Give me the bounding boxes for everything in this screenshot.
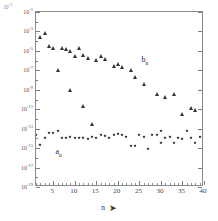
data-point-b_n bbox=[142, 82, 146, 86]
x-axis-minor-tick bbox=[152, 183, 153, 185]
data-point-a_n bbox=[78, 137, 81, 140]
data-point-a_n bbox=[90, 135, 93, 138]
data-point-b_n bbox=[68, 49, 72, 53]
x-axis-minor-tick bbox=[58, 183, 59, 185]
y-axis-tick-label: 10-15 bbox=[21, 144, 33, 151]
data-point-b_n bbox=[172, 92, 176, 96]
data-point-a_n bbox=[151, 133, 154, 136]
x-axis-minor-tick bbox=[109, 183, 110, 185]
x-axis-minor-tick bbox=[200, 183, 201, 185]
y-tick-exponent: -3 bbox=[29, 26, 33, 31]
x-axis-minor-tick bbox=[36, 183, 37, 185]
y-axis-tick bbox=[36, 90, 40, 91]
data-point-b_n bbox=[77, 46, 81, 50]
x-axis-minor-tick bbox=[101, 183, 102, 185]
data-point-b_n bbox=[133, 75, 137, 79]
x-axis-tick bbox=[161, 181, 162, 185]
series-label-subscript: n bbox=[146, 60, 149, 66]
y-axis-tick-right bbox=[198, 129, 202, 130]
y-tick-exponent: -19 bbox=[27, 182, 33, 187]
x-axis-tick bbox=[118, 181, 119, 185]
x-axis-minor-tick bbox=[122, 183, 123, 185]
x-axis-minor-tick bbox=[88, 183, 89, 185]
x-axis-minor-tick bbox=[114, 183, 115, 185]
data-point-a_n bbox=[43, 137, 46, 140]
data-point-a_n bbox=[36, 134, 38, 137]
y-axis-tick bbox=[36, 148, 40, 149]
x-axis-tick-label: 30 bbox=[156, 188, 163, 195]
x-axis-minor-tick bbox=[174, 183, 175, 185]
data-point-a_n bbox=[159, 142, 162, 145]
y-tick-exponent: -7 bbox=[29, 65, 33, 70]
data-point-a_n bbox=[56, 129, 59, 132]
series-label-subscript: n bbox=[59, 152, 62, 158]
data-point-a_n bbox=[181, 138, 184, 141]
data-point-a_n bbox=[82, 136, 85, 139]
data-point-a_n bbox=[103, 134, 106, 137]
data-point-a_n bbox=[190, 136, 193, 139]
x-axis-minor-tick bbox=[83, 183, 84, 185]
x-axis-minor-tick bbox=[49, 183, 50, 185]
x-axis-tick-label: 10 bbox=[70, 188, 77, 195]
y-axis-tick-label: 10-9 bbox=[23, 85, 33, 92]
y-axis-tick-right bbox=[198, 12, 202, 13]
x-axis-minor-tick bbox=[131, 183, 132, 185]
data-point-a_n bbox=[185, 129, 188, 132]
data-point-a_n bbox=[65, 137, 68, 140]
x-axis-title: n➤ bbox=[0, 203, 218, 212]
x-axis-tick bbox=[96, 181, 97, 185]
data-point-a_n bbox=[194, 142, 197, 145]
data-point-a_n bbox=[164, 136, 167, 139]
y-axis-tick-label: 10-13 bbox=[21, 124, 33, 131]
y-axis-tick-right bbox=[198, 51, 202, 52]
data-point-a_n bbox=[86, 138, 89, 141]
x-axis-minor-tick bbox=[170, 183, 171, 185]
data-point-a_n bbox=[134, 144, 137, 147]
x-axis-minor-tick bbox=[165, 183, 166, 185]
x-axis-minor-tick bbox=[62, 183, 63, 185]
right-arrow-icon: ➤ bbox=[109, 204, 117, 213]
y-axis-tick bbox=[36, 70, 40, 71]
figure: 10-3 10-110-310-510-710-910-1110-1310-15… bbox=[0, 0, 218, 221]
data-point-b_n bbox=[56, 68, 60, 72]
data-point-a_n bbox=[69, 135, 72, 138]
x-axis-minor-tick bbox=[144, 183, 145, 185]
x-axis-tick-label: 35 bbox=[178, 188, 185, 195]
x-axis-minor-tick bbox=[148, 183, 149, 185]
x-axis-tick bbox=[139, 181, 140, 185]
data-point-a_n bbox=[155, 134, 158, 137]
data-point-a_n bbox=[168, 135, 171, 138]
x-axis-tick-label: 20 bbox=[113, 188, 120, 195]
y-axis-tick-right bbox=[198, 31, 202, 32]
plot-area: bnan bbox=[36, 12, 202, 185]
data-point-b_n bbox=[94, 58, 98, 62]
data-point-b_n bbox=[120, 65, 124, 69]
y-axis-minor-tick bbox=[36, 177, 38, 178]
y-tick-exponent: -15 bbox=[27, 143, 33, 148]
data-point-a_n bbox=[108, 136, 111, 139]
x-axis-minor-tick bbox=[157, 183, 158, 185]
data-point-b_n bbox=[90, 122, 94, 126]
data-point-b_n bbox=[103, 57, 107, 61]
x-axis-minor-tick bbox=[105, 183, 106, 185]
data-point-a_n bbox=[116, 132, 119, 135]
x-axis-minor-tick bbox=[45, 183, 46, 185]
y-axis-tick-right bbox=[198, 168, 202, 169]
y-axis-tick-label: 10-17 bbox=[21, 163, 33, 170]
data-point-b_n bbox=[68, 88, 72, 92]
y-axis-minor-tick bbox=[36, 80, 38, 81]
data-point-b_n bbox=[155, 92, 159, 96]
y-axis-minor-tick bbox=[36, 22, 38, 23]
y-tick-exponent: -5 bbox=[29, 45, 33, 50]
x-axis-minor-tick bbox=[92, 183, 93, 185]
data-point-b_n bbox=[193, 108, 197, 112]
data-point-b_n bbox=[86, 56, 90, 60]
data-point-a_n bbox=[99, 133, 102, 136]
y-axis-tick-right bbox=[198, 148, 202, 149]
x-axis-minor-tick bbox=[187, 183, 188, 185]
data-point-a_n bbox=[159, 129, 162, 132]
y-axis-tick-right bbox=[198, 109, 202, 110]
data-point-a_n bbox=[142, 135, 145, 138]
x-axis-minor-tick bbox=[126, 183, 127, 185]
y-axis-tick-label: 10-11 bbox=[21, 105, 33, 112]
